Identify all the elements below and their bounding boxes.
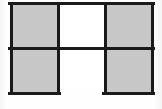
diagram-layer	[0, 0, 162, 109]
figure-canvas	[0, 0, 162, 109]
bottom-left-square-fill	[11, 48, 58, 93]
bottom-right-square-fill	[105, 48, 152, 93]
top-right-square-fill	[105, 3, 152, 48]
bottom-center-gap-fill	[58, 48, 105, 93]
top-center-square-fill	[58, 3, 105, 48]
square-grid-figure	[0, 0, 162, 109]
top-left-square-fill	[11, 3, 58, 48]
